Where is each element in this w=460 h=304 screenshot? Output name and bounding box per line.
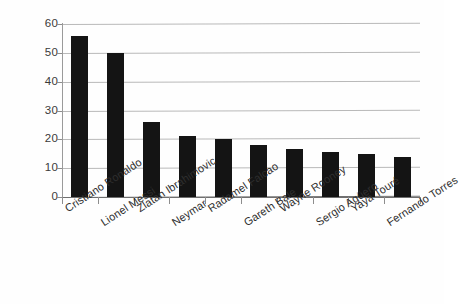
x-axis-label: Neymar — [170, 198, 209, 229]
